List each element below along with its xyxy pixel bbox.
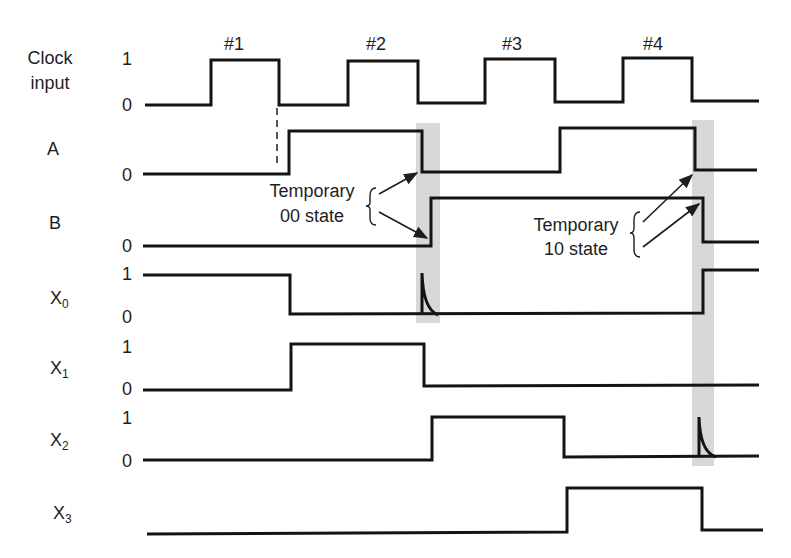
- annotation-00-line1: Temporary: [269, 181, 354, 201]
- temporary-00-highlight-band: [416, 123, 440, 323]
- arrow-icon: [643, 204, 699, 247]
- signal-label-x3: X3: [53, 503, 72, 526]
- annotation-temporary-00: Temporary 00 state: [269, 173, 427, 238]
- pulse-label-4: #4: [643, 34, 663, 54]
- x2-level-1: 1: [122, 408, 132, 428]
- waveform-x2: [143, 417, 759, 460]
- clock-pulse-labels: #1 #2 #3 #4: [224, 34, 663, 54]
- waveform-x1: [143, 344, 759, 390]
- x1-level-0: 0: [122, 379, 132, 399]
- clock-level-0: 0: [122, 95, 132, 115]
- curly-brace-icon: [630, 212, 640, 257]
- waveform-x3: [147, 488, 763, 534]
- waveforms: [143, 58, 763, 534]
- signal-label-b: B: [49, 213, 61, 233]
- waveform-a: [143, 128, 757, 174]
- x2-level-0: 0: [122, 451, 132, 471]
- x0-level-1: 1: [122, 264, 132, 284]
- clock-label-line2: input: [30, 73, 69, 93]
- pulse-label-2: #2: [366, 34, 386, 54]
- signal-label-x0: X0: [50, 288, 69, 311]
- clock-label-line1: Clock: [27, 48, 73, 68]
- x0-level-0: 0: [122, 307, 132, 327]
- curly-brace-icon: [366, 188, 376, 225]
- arrow-icon: [379, 173, 417, 194]
- signal-label-x1: X1: [50, 358, 69, 381]
- signal-label-x2: X2: [50, 430, 69, 453]
- annotation-10-line2: 10 state: [544, 239, 608, 259]
- signal-labels: Clock input A B X0 X1 X2 X3: [27, 48, 73, 526]
- logic-level-labels: 1 0 0 0 1 0 1 0 1 0: [122, 49, 132, 471]
- waveform-b: [143, 198, 759, 246]
- signal-label-a: A: [47, 139, 59, 159]
- pulse-label-3: #3: [502, 34, 522, 54]
- annotation-00-line2: 00 state: [280, 206, 344, 226]
- b-level-0: 0: [122, 236, 132, 256]
- waveform-clock: [145, 58, 759, 105]
- annotation-10-line1: Temporary: [533, 215, 618, 235]
- x1-level-1: 1: [122, 337, 132, 357]
- clock-level-1: 1: [122, 49, 132, 69]
- pulse-label-1: #1: [224, 34, 244, 54]
- waveform-x0: [143, 270, 759, 314]
- a-level-0: 0: [122, 165, 132, 185]
- timing-diagram: #1 #2 #3 #4 Clock input A B X0 X1 X2 X3 …: [0, 0, 791, 558]
- annotation-temporary-10: Temporary 10 state: [533, 175, 699, 259]
